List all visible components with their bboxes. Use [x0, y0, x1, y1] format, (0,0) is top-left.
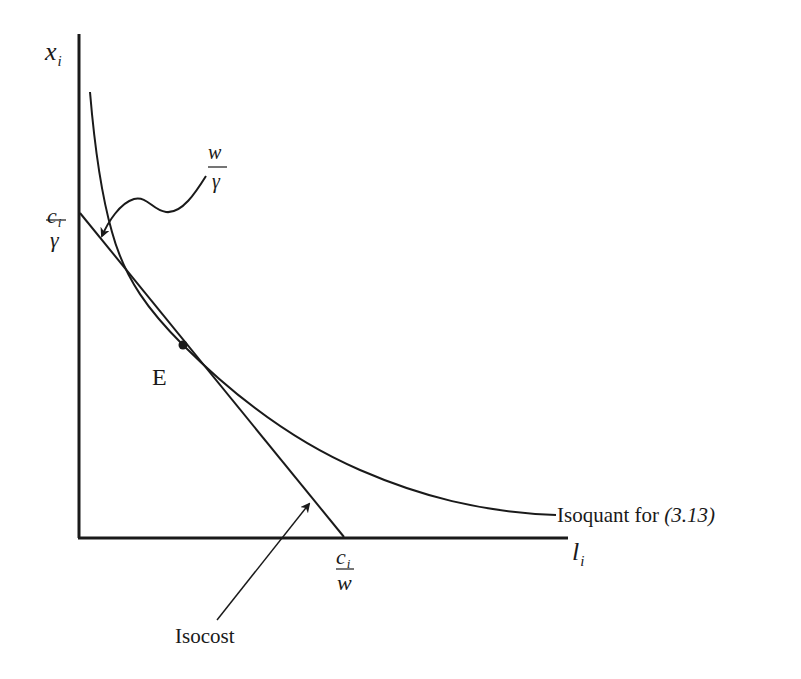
isocost-label: Isocost — [175, 624, 235, 648]
slope-label: w γ — [208, 141, 227, 193]
svg-text:γ: γ — [212, 170, 221, 193]
y-intercept-label: ci γ — [46, 203, 66, 252]
y-axis-label: xi — [44, 37, 62, 69]
tangency-point-e — [179, 341, 188, 350]
svg-text:ci: ci — [47, 203, 62, 230]
isocost-line — [80, 213, 344, 537]
svg-text:w: w — [208, 141, 222, 163]
slope-pointer-arrow — [102, 176, 206, 236]
isoquant-curve — [90, 92, 556, 515]
point-e-label: E — [152, 364, 167, 390]
isoquant-diagram: xi li ci γ ci w w γ E Isoquant for (3.13… — [0, 0, 801, 679]
x-intercept-label: ci w — [336, 544, 354, 595]
svg-text:γ: γ — [50, 227, 60, 252]
svg-text:ci: ci — [336, 544, 351, 571]
isoquant-label: Isoquant for (3.13) — [557, 503, 715, 527]
x-axis-label: li — [572, 537, 584, 569]
isocost-pointer-arrow — [217, 504, 309, 620]
svg-text:w: w — [337, 570, 352, 595]
